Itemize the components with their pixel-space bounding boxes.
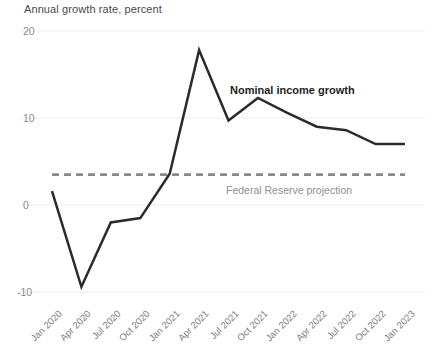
chart-container: Annual growth rate, percent 20100-10 Jan… [0,0,440,361]
gridlines [20,31,425,292]
y-axis-tick-label: 20 [23,25,35,37]
series-annotation-nominal-income-growth: Nominal income growth [230,84,355,96]
chart-plot-area [0,0,440,361]
y-axis-tick-label: 0 [23,199,29,211]
series-annotation-federal-reserve-projection: Federal Reserve projection [226,184,352,196]
y-axis-tick-label: 10 [23,112,35,124]
y-axis-tick-label: -10 [17,286,32,298]
